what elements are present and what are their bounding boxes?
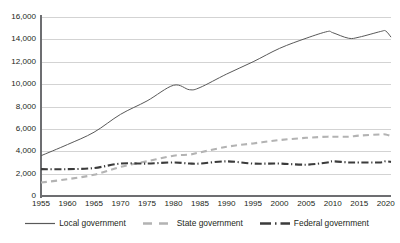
series-line-federal-government xyxy=(41,161,391,169)
legend-label-state-government: State government xyxy=(177,219,243,227)
legend-label-local-government: Local government xyxy=(59,219,126,227)
series-line-local-government xyxy=(41,30,391,155)
legend-item-local-government[interactable]: Local government xyxy=(25,219,126,228)
chart-legend: Local government State government Federa… xyxy=(0,219,394,228)
legend-item-state-government[interactable]: State government xyxy=(143,219,243,228)
legend-swatch-federal-government xyxy=(260,219,290,228)
series-line-state-government xyxy=(41,134,391,182)
clipped-caption xyxy=(0,235,394,243)
legend-item-federal-government[interactable]: Federal government xyxy=(260,219,369,228)
legend-label-federal-government: Federal government xyxy=(294,219,369,227)
legend-swatch-local-government xyxy=(25,219,55,228)
legend-swatch-state-government xyxy=(143,219,173,228)
